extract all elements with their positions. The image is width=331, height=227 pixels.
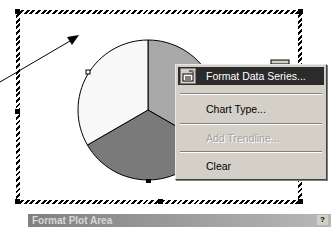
help-button[interactable]: ? — [317, 215, 328, 225]
menu-separator — [180, 93, 322, 95]
menu-item-chart-type[interactable]: Chart Type... — [178, 100, 324, 118]
context-menu: Format Data Series... Chart Type... Add … — [175, 64, 327, 180]
menu-item-format-data-series[interactable]: Format Data Series... — [178, 67, 324, 85]
menu-item-label: Add Trendline... — [206, 129, 280, 147]
pie-selection-handle-left[interactable] — [86, 70, 90, 74]
menu-separator — [180, 151, 322, 153]
menu-item-clear[interactable]: Clear — [178, 157, 324, 175]
dialog-title-bar[interactable]: Format Plot Area ? — [28, 214, 331, 227]
menu-item-add-trendline: Add Trendline... — [178, 129, 324, 147]
menu-item-label: Chart Type... — [206, 100, 266, 118]
dialog-title: Format Plot Area — [32, 214, 112, 227]
menu-item-label: Clear — [206, 157, 231, 175]
format-data-series-icon — [180, 68, 196, 84]
pie-selection-handle-bottom[interactable] — [146, 179, 151, 183]
menu-separator — [180, 123, 322, 125]
menu-item-label: Format Data Series... — [206, 67, 306, 85]
